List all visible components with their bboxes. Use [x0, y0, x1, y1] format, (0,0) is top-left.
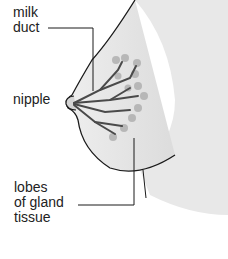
label-lobes-of-gland-tissue: lobes of gland tissue [14, 180, 64, 225]
label-milk-duct: milk duct [13, 5, 39, 35]
label-nipple: nipple [13, 92, 50, 107]
